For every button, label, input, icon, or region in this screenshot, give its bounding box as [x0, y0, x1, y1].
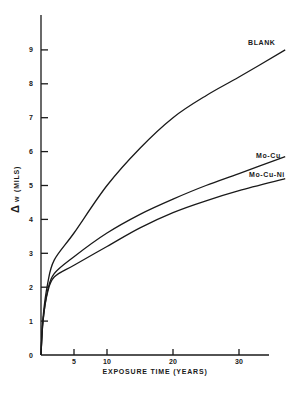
x-ticks: 5102030: [72, 349, 243, 365]
label-mo-cu-ni: Mo-Cu-Ni: [249, 171, 285, 178]
x-tick-label: 30: [235, 358, 243, 365]
y-axis-title: Δ w (MILS): [9, 166, 21, 213]
x-tick-label: 5: [72, 358, 76, 365]
x-axis-title: EXPOSURE TIME (YEARS): [102, 368, 207, 376]
x-tick-label: 10: [103, 358, 111, 365]
axes: [41, 15, 269, 355]
y-axis-unit: (MILS): [13, 166, 21, 192]
y-tick-label: 6: [29, 148, 33, 155]
exposure-chart: 0123456789 5102030 BLANKMo-CuMo-Cu-Ni EX…: [0, 0, 307, 395]
label-mo-cu: Mo-Cu: [256, 152, 281, 159]
label-blank: BLANK: [248, 39, 276, 46]
curves: [41, 50, 285, 355]
y-ticks: 0123456789: [29, 46, 48, 358]
y-tick-label: 1: [29, 318, 33, 325]
x-tick-label: 20: [169, 358, 177, 365]
y-tick-label: 4: [29, 216, 33, 223]
y-tick-label: 3: [29, 250, 33, 257]
y-tick-label: 7: [29, 114, 33, 121]
y-axis-symbol: Δ: [9, 205, 21, 213]
curve-blank: [41, 50, 285, 355]
y-tick-label: 8: [29, 80, 33, 87]
y-tick-label: 0: [29, 352, 33, 359]
y-tick-label: 2: [29, 284, 33, 291]
curve-mo-cu-ni: [41, 179, 285, 355]
y-tick-label: 5: [29, 182, 33, 189]
y-tick-label: 9: [29, 46, 33, 53]
curve-mo-cu: [41, 157, 285, 355]
series-labels: BLANKMo-CuMo-Cu-Ni: [248, 39, 285, 178]
y-axis-variable: w: [13, 196, 20, 203]
